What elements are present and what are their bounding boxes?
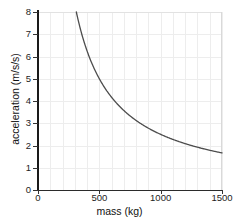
horizontal-gridline — [38, 101, 222, 102]
y-axis-tick — [33, 34, 38, 35]
x-axis-tick-label: 500 — [76, 193, 122, 203]
x-axis-title: mass (kg) — [0, 205, 239, 217]
horizontal-gridline — [38, 123, 222, 124]
horizontal-gridline — [38, 57, 222, 58]
horizontal-gridline — [38, 168, 222, 169]
y-axis-tick — [33, 12, 38, 13]
plot-frame-top — [38, 12, 222, 13]
x-axis-tick-label: 1000 — [138, 193, 184, 203]
y-axis-tick — [33, 146, 38, 147]
chart-figure: 012345678050010001500 acceleration (m/s/… — [0, 0, 239, 224]
y-axis-tick-label: 8 — [3, 7, 31, 16]
x-axis-line — [37, 190, 223, 191]
horizontal-gridline — [38, 146, 222, 147]
x-axis-tick-label: 0 — [15, 193, 61, 203]
y-axis-tick — [33, 57, 38, 58]
y-axis-title: acceleration (m/s/s) — [9, 24, 21, 174]
y-axis-tick — [33, 101, 38, 102]
horizontal-gridline — [38, 34, 222, 35]
y-axis-tick — [33, 123, 38, 124]
horizontal-gridline — [38, 79, 222, 80]
y-axis-tick — [33, 79, 38, 80]
x-axis-tick-label: 1500 — [199, 193, 239, 203]
plot-frame-right — [221, 12, 222, 190]
y-axis-tick — [33, 168, 38, 169]
